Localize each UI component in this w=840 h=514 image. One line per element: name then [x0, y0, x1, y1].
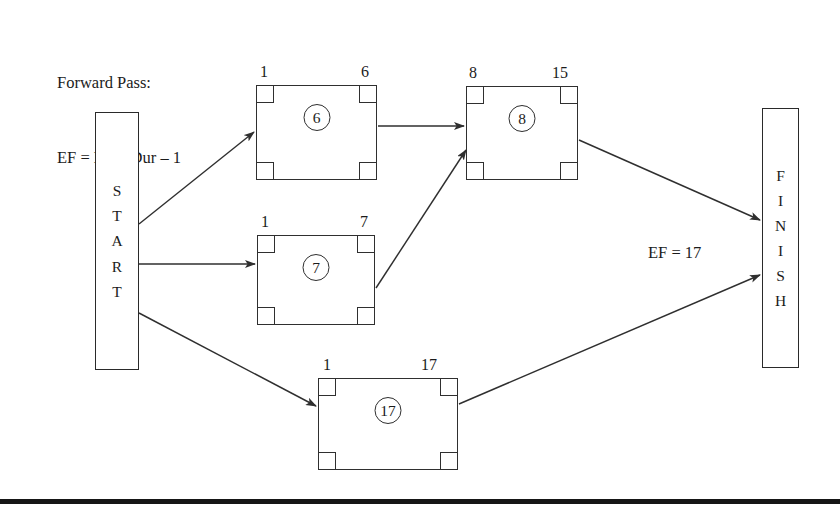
finish-terminator: F I N I S H — [762, 108, 799, 368]
bottom-rule-divider — [0, 499, 840, 504]
edge-task-d-to-finish — [459, 275, 760, 404]
duration-circle: 8 — [509, 105, 536, 132]
early-start-label-d: 1 — [323, 357, 331, 373]
finish-char-1: F — [776, 163, 785, 188]
edge-task-b-to-finish — [579, 140, 760, 220]
edge-start-to-task-a — [139, 132, 254, 224]
duration-circle: 6 — [303, 104, 330, 131]
start-char-5: T — [112, 279, 121, 304]
finish-char-5: S — [776, 263, 785, 288]
start-char-2: T — [112, 203, 121, 228]
edge-start-to-task-d — [139, 313, 316, 406]
corner-square-bottom-right — [359, 162, 377, 180]
start-char-3: A — [111, 228, 122, 253]
finish-char-2: I — [778, 188, 783, 213]
early-finish-label-c: 7 — [360, 214, 368, 230]
early-start-label-b: 8 — [469, 65, 477, 81]
corner-square-bottom-right — [357, 307, 375, 325]
activity-node-c: 7 — [257, 235, 375, 325]
corner-square-top-left — [466, 86, 484, 104]
early-finish-label-d: 17 — [421, 357, 437, 373]
corner-square-bottom-left — [257, 307, 275, 325]
duration-circle: 7 — [303, 254, 330, 281]
corner-square-top-right — [359, 85, 377, 103]
finish-char-3: N — [775, 213, 786, 238]
corner-square-bottom-right — [440, 452, 458, 470]
early-finish-label-b: 15 — [552, 65, 568, 81]
corner-square-top-right — [440, 378, 458, 396]
corner-square-top-left — [257, 235, 275, 253]
corner-square-top-left — [256, 85, 274, 103]
ef-annotation-label: EF = 17 — [648, 243, 701, 263]
corner-square-bottom-left — [318, 452, 336, 470]
corner-square-bottom-left — [256, 162, 274, 180]
corner-square-bottom-left — [466, 162, 484, 180]
early-start-label-a: 1 — [260, 64, 268, 80]
start-char-1: S — [113, 178, 122, 203]
corner-square-top-right — [560, 86, 578, 104]
early-start-label-c: 1 — [261, 214, 269, 230]
early-finish-label-a: 6 — [361, 64, 369, 80]
activity-node-a: 6 — [256, 85, 377, 180]
edge-task-c-to-task-b — [376, 150, 466, 288]
start-char-4: R — [112, 254, 122, 279]
network-diagram-figure: Forward Pass: EF = ES + Dur – 1 S T A R … — [0, 0, 840, 514]
finish-char-4: I — [778, 238, 783, 263]
corner-square-top-left — [318, 378, 336, 396]
start-terminator: S T A R T — [95, 112, 139, 370]
activity-node-d: 17 — [318, 378, 458, 470]
duration-circle: 17 — [375, 397, 402, 424]
activity-node-b: 8 — [466, 86, 578, 180]
finish-char-6: H — [775, 288, 786, 313]
corner-square-top-right — [357, 235, 375, 253]
corner-square-bottom-right — [560, 162, 578, 180]
